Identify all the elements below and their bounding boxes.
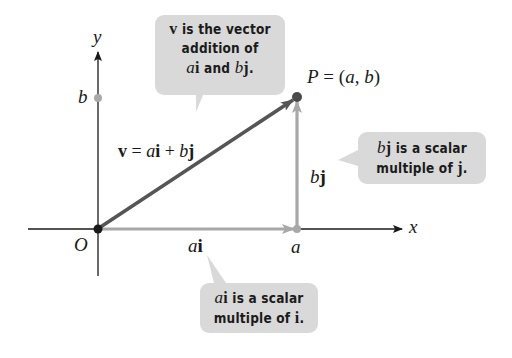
bj-j: j xyxy=(320,166,326,187)
eq-sign: = xyxy=(127,141,146,161)
callout-vector-addition: v is the vector addition of ai and bj. xyxy=(155,15,285,95)
right-callout-pointer xyxy=(338,150,358,166)
callout-bottom-line2: multiple of i. xyxy=(200,308,318,328)
v-symbol: v xyxy=(118,141,127,161)
callout-right-line1: bj is a scalar xyxy=(358,138,486,158)
P-symbol: P xyxy=(307,66,319,87)
origin-dot xyxy=(94,225,103,234)
P-close: ) xyxy=(374,66,380,87)
bottom-callout-pointer xyxy=(207,255,226,283)
bj-b: b xyxy=(310,166,320,187)
x-axis-label: x xyxy=(409,216,417,238)
v-vector xyxy=(99,100,293,228)
point-P-dot xyxy=(292,92,302,102)
ai-a: a xyxy=(188,235,198,256)
b-tick-label: b xyxy=(78,86,88,108)
callout-top-line1: v is the vector xyxy=(155,19,285,39)
vector-addition-diagram: y x O b a P = (a, b) v = ai + bj ai bj v… xyxy=(0,0,512,358)
y-axis-label: y xyxy=(93,26,101,48)
callout-ai-scalar: ai is a scalar multiple of i. xyxy=(200,283,318,333)
plus-sign: + xyxy=(160,141,179,161)
a-symbol: a xyxy=(146,141,155,161)
callout-bottom-line1: ai is a scalar xyxy=(200,288,318,308)
ai-i: i xyxy=(198,235,203,256)
origin-label: O xyxy=(74,234,88,256)
a-tick-label: a xyxy=(291,236,301,258)
ai-label: ai xyxy=(188,235,203,257)
callout-top-line3: ai and bj. xyxy=(155,58,285,78)
b-tick-dot xyxy=(94,94,102,102)
j-symbol: j xyxy=(188,141,194,161)
a-tick-dot xyxy=(293,225,301,233)
v-equation-label: v = ai + bj xyxy=(118,141,194,162)
callout-bj-scalar: bj is a scalar multiple of j. xyxy=(358,132,486,184)
bj-label: bj xyxy=(310,166,326,188)
callout-right-line2: multiple of j. xyxy=(358,158,486,178)
b-symbol: b xyxy=(179,141,188,161)
P-b: b xyxy=(364,66,374,87)
P-comma: , xyxy=(355,66,365,87)
P-a: a xyxy=(345,66,355,87)
callout-top-line2: addition of xyxy=(155,39,285,58)
P-eq: = ( xyxy=(319,66,346,87)
point-P-label: P = (a, b) xyxy=(307,66,380,88)
